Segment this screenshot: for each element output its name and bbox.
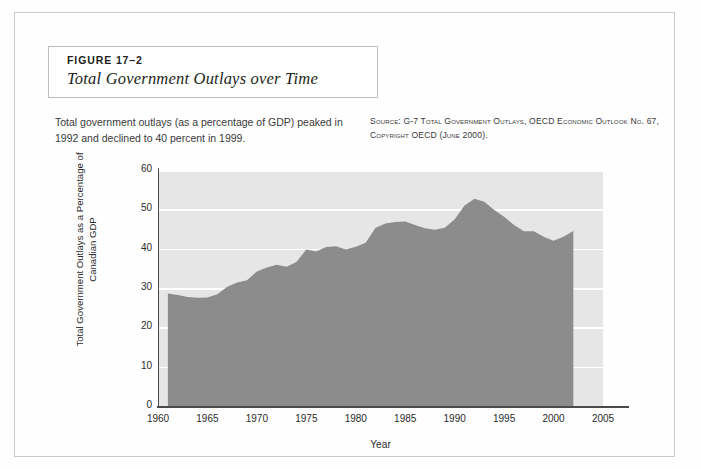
figure-caption: Total government outlays (as a percentag… — [55, 114, 355, 146]
area-series — [158, 170, 603, 406]
page-frame: FIGURE 17–2 Total Government Outlays ove… — [14, 12, 675, 457]
figure-number: FIGURE 17–2 — [67, 54, 377, 67]
y-tick-label-60: 60 — [128, 163, 152, 174]
chart-area: Total Government Outlays as a Percentage… — [48, 161, 668, 451]
x-tick-label-1960: 1960 — [138, 413, 178, 424]
x-tick-label-1975: 1975 — [286, 413, 326, 424]
plot-region — [158, 170, 603, 406]
y-tick-label-10: 10 — [128, 360, 152, 371]
x-tick-label-1990: 1990 — [435, 413, 475, 424]
y-axis-title: Total Government Outlays as a Percentage… — [74, 150, 99, 350]
x-axis-line — [157, 406, 629, 408]
x-tick-label-1985: 1985 — [385, 413, 425, 424]
figure-label-box: FIGURE 17–2 Total Government Outlays ove… — [48, 46, 378, 98]
x-axis-title: Year — [158, 439, 603, 450]
y-tick-label-20: 20 — [128, 320, 152, 331]
figure-page: FIGURE 17–2 Total Government Outlays ove… — [0, 0, 701, 469]
y-tick-label-0: 0 — [128, 399, 152, 410]
y-axis-ticks: 6050403020100 — [124, 161, 152, 407]
x-tick-label-1995: 1995 — [484, 413, 524, 424]
y-tick-label-30: 30 — [128, 281, 152, 292]
y-axis-line — [158, 168, 160, 408]
x-tick-label-2005: 2005 — [583, 413, 623, 424]
x-tick-label-1980: 1980 — [336, 413, 376, 424]
x-tick-label-1970: 1970 — [237, 413, 277, 424]
figure-title: Total Government Outlays over Time — [67, 68, 377, 89]
figure-source: Source: G-7 Total Government Outlays, OE… — [370, 114, 670, 142]
y-tick-label-50: 50 — [128, 202, 152, 213]
x-tick-label-1965: 1965 — [187, 413, 227, 424]
y-tick-label-40: 40 — [128, 242, 152, 253]
x-tick-label-2000: 2000 — [534, 413, 574, 424]
